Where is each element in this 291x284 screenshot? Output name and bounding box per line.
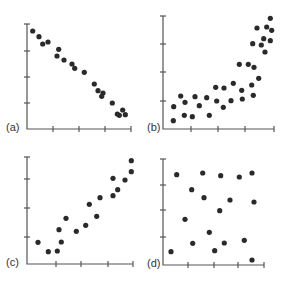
data-point	[178, 93, 183, 98]
data-point	[171, 104, 176, 109]
data-point	[249, 170, 254, 175]
panel-c	[24, 157, 134, 267]
data-point	[168, 249, 173, 254]
data-point	[254, 25, 259, 30]
data-point	[221, 85, 226, 90]
data-point	[110, 100, 115, 105]
panel-label-c: (c)	[6, 256, 19, 268]
data-point	[249, 257, 254, 262]
data-point	[182, 100, 187, 105]
data-point	[192, 94, 197, 99]
data-point	[83, 223, 88, 228]
axes	[163, 16, 274, 129]
data-point	[123, 112, 128, 117]
panel-label-b: (b)	[147, 121, 160, 133]
data-point	[262, 49, 267, 54]
data-point	[268, 16, 273, 21]
data-point	[201, 195, 206, 200]
data-point	[171, 118, 176, 123]
data-point	[99, 94, 104, 99]
data-point	[251, 93, 256, 98]
data-point	[222, 240, 227, 245]
data-point	[212, 248, 217, 253]
data-point	[204, 95, 209, 100]
data-point	[261, 36, 266, 41]
data-point	[92, 81, 97, 86]
data-point	[129, 158, 134, 163]
data-point	[242, 238, 247, 243]
data-point	[174, 172, 179, 177]
data-point	[74, 229, 79, 234]
data-point	[227, 197, 232, 202]
data-point	[246, 62, 251, 67]
data-point	[259, 42, 264, 47]
data-point	[122, 177, 127, 182]
panel-a	[24, 24, 131, 132]
data-point	[69, 61, 74, 66]
data-point	[97, 195, 102, 200]
data-point	[189, 187, 194, 192]
data-point	[256, 76, 261, 81]
scatter-plot-grid: (a) (b) (c) (d)	[0, 0, 291, 284]
data-point	[269, 28, 274, 33]
data-point	[190, 114, 195, 119]
data-point	[218, 173, 223, 178]
panel-label-a: (a)	[6, 121, 19, 133]
data-point	[264, 24, 269, 29]
axes	[27, 157, 133, 264]
data-point	[55, 248, 60, 253]
data-point	[59, 239, 64, 244]
data-point	[63, 216, 68, 221]
data-point	[35, 240, 40, 245]
data-point	[237, 62, 242, 67]
data-point	[129, 169, 134, 174]
data-point	[115, 187, 120, 192]
data-point	[213, 85, 218, 90]
data-point	[72, 66, 77, 71]
panel-b	[160, 16, 274, 132]
data-point	[182, 217, 187, 222]
data-point	[45, 39, 50, 44]
data-point	[182, 113, 187, 118]
data-point	[231, 81, 236, 86]
data-point	[117, 113, 122, 118]
data-point	[214, 98, 219, 103]
data-point	[120, 107, 125, 112]
data-point	[197, 103, 202, 108]
data-point	[95, 88, 100, 93]
data-point	[250, 41, 255, 46]
data-point	[251, 65, 256, 70]
data-point	[110, 193, 115, 198]
data-point	[46, 249, 51, 254]
data-point	[240, 96, 245, 101]
data-point	[249, 82, 254, 87]
data-point	[228, 98, 233, 103]
data-point	[190, 241, 195, 246]
data-point	[87, 202, 92, 207]
data-point	[221, 105, 226, 110]
data-point	[40, 41, 45, 46]
data-point	[268, 38, 273, 43]
data-point	[56, 227, 61, 232]
panel-label-d: (d)	[147, 257, 160, 269]
data-point	[61, 57, 66, 62]
data-point	[36, 34, 41, 39]
panel-d	[160, 159, 264, 268]
data-point	[82, 70, 87, 75]
data-point	[54, 53, 59, 58]
data-point	[56, 47, 61, 52]
data-point	[239, 88, 244, 93]
data-point	[251, 199, 256, 204]
data-point	[30, 28, 35, 33]
data-point	[217, 208, 222, 213]
data-point	[200, 170, 205, 175]
data-point	[207, 113, 212, 118]
data-point	[207, 230, 212, 235]
data-point	[94, 214, 99, 219]
data-point	[110, 176, 115, 181]
data-point	[237, 174, 242, 179]
